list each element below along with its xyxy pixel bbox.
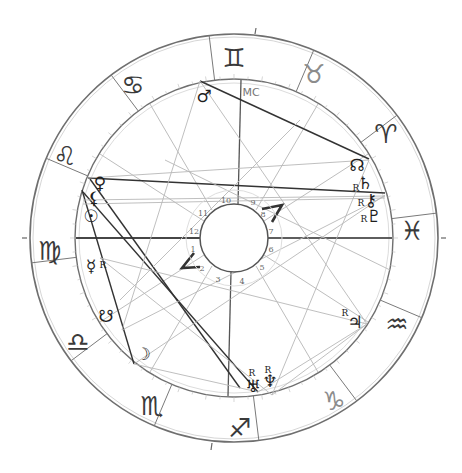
degree-tick [178, 84, 180, 89]
south-node-icon: ☋ [98, 306, 113, 326]
degree-tick [129, 112, 132, 116]
planet-mars: ♂ [196, 86, 211, 106]
retrograde-label: R [353, 183, 360, 193]
degree-tick [206, 395, 207, 400]
degree-tick [178, 387, 180, 392]
degree-tick [325, 105, 327, 107]
house-number-10: 10 [221, 196, 231, 205]
capricorn-icon: ♑ [322, 386, 345, 416]
house-number-1: 1 [190, 245, 195, 254]
aquarius-icon: ♒ [385, 309, 408, 339]
uranus-icon: ♅ [245, 376, 260, 396]
degree-tick [108, 133, 112, 136]
house-number-7: 7 [268, 227, 273, 236]
sun-icon: ☉ [83, 206, 98, 226]
scorpio-icon: ♏ [140, 391, 163, 421]
degree-tick [206, 76, 207, 81]
house-number-4: 4 [239, 277, 244, 286]
house-number-8: 8 [260, 210, 265, 219]
planet-south-node: ☋ [98, 306, 113, 326]
planet-lilith: ⚸ [88, 188, 100, 208]
house-cusp-line [100, 154, 204, 221]
midheaven-label: MC [242, 86, 259, 99]
north-node-icon: ☊ [349, 155, 364, 175]
planet-moon: ☽ [135, 344, 150, 364]
degree-tick [119, 350, 121, 352]
virgo-icon: ♍ [38, 236, 61, 266]
aspect-line [88, 160, 369, 178]
chart-angles: MC [242, 86, 259, 99]
degree-tick [262, 395, 263, 400]
degree-tick [72, 266, 77, 267]
house-number-6: 6 [268, 245, 273, 254]
house-number-3: 3 [215, 275, 220, 284]
retrograde-label: R [249, 368, 256, 378]
aries-icon: ♈ [374, 119, 397, 149]
aspect-line [100, 258, 272, 395]
degree-tick [372, 156, 376, 159]
pluto-icon: ♇ [366, 206, 381, 226]
degree-tick [383, 182, 388, 184]
mercury-icon: ☿ [86, 256, 96, 276]
degree-tick [346, 123, 348, 125]
axis-tick [255, 28, 256, 34]
degree-tick [346, 350, 348, 352]
pisces-icon: ♓ [400, 216, 423, 246]
planet-uranus: ♅R [245, 368, 260, 396]
retrograde-label: R [361, 214, 368, 224]
aspect-line [200, 81, 369, 159]
planet-north-node: ☊ [349, 155, 364, 175]
degree-tick [92, 156, 96, 159]
degree-tick [364, 145, 366, 147]
house-cusp-line [256, 104, 318, 210]
center-circle [200, 204, 268, 272]
degree-tick [80, 292, 85, 294]
house-number-2: 2 [199, 264, 204, 273]
lilith-icon: ⚸ [88, 188, 100, 208]
degree-tick [314, 376, 317, 380]
aspect-line [88, 178, 385, 193]
degree-tick [288, 387, 290, 392]
retrograde-label: R [358, 198, 365, 208]
aspect-line [83, 196, 385, 200]
planet-neptune: ♆R [262, 365, 277, 391]
degree-tick [372, 318, 376, 321]
cancer-icon: ♋ [121, 70, 144, 100]
degree-tick [101, 329, 103, 331]
house-number-5: 5 [259, 263, 264, 272]
degree-tick [101, 145, 103, 147]
aspect-line [122, 81, 200, 330]
natal-chart-wheel: 109876543211211 ♊♉♈♓♒♑♐♏♎♍♌♋ ♂☊♄R⚷R♇R♀⚸☉… [0, 0, 462, 473]
degree-tick [336, 360, 339, 364]
degree-tick [152, 96, 155, 100]
degree-tick [80, 182, 85, 184]
house-number-9: 9 [250, 198, 255, 207]
gemini-icon: ♊ [222, 43, 245, 73]
degree-tick [92, 318, 96, 321]
degree-tick [364, 329, 366, 331]
house-number-12: 12 [189, 227, 199, 236]
moon-icon: ☽ [135, 344, 150, 364]
sagittarius-icon: ♐ [228, 413, 251, 443]
degree-tick [314, 96, 317, 100]
degree-tick [129, 360, 132, 364]
degree-tick [262, 76, 263, 81]
planet-sun: ☉ [83, 206, 98, 226]
retrograde-label: R [342, 308, 349, 318]
axis-tick [211, 443, 212, 450]
house-number-11: 11 [198, 209, 208, 218]
sign-cusp-line [209, 36, 214, 81]
degree-tick [356, 133, 360, 136]
jupiter-icon: ♃ [347, 312, 362, 332]
degree-tick [325, 368, 327, 370]
degree-tick [383, 292, 388, 294]
degree-tick [391, 210, 396, 211]
semisquare-aspect-left-icon [182, 253, 200, 268]
house-cusp-line [150, 266, 212, 372]
degree-tick [288, 84, 290, 89]
leo-icon: ♌ [53, 141, 76, 171]
degree-tick [391, 266, 396, 267]
degree-tick [336, 112, 339, 116]
taurus-icon: ♉ [302, 59, 325, 89]
degree-tick [356, 340, 360, 343]
